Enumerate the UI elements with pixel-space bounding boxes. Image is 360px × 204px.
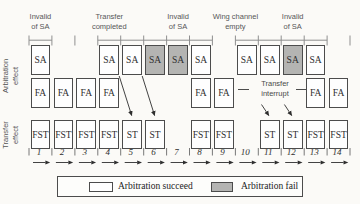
legend-label-succeed: Arbitration succeed (118, 181, 193, 191)
event-label-3-line1: Invalid (167, 12, 189, 22)
event-label-4-line2: empty (213, 22, 258, 32)
fa-arbitration-box-slot-3: FA (76, 78, 96, 108)
timeline-slot-number-13: 13 (310, 147, 319, 157)
fa-arbitration-box-slot-4: FA (99, 78, 119, 108)
event-label-1-line2: of SA (30, 22, 52, 32)
legend-swatch-fail (211, 182, 233, 192)
transfer-effect-line1: Transfer (1, 100, 11, 170)
event-label-3-line2: of SA (167, 22, 189, 32)
transfer-box-slot-3: FST (76, 120, 96, 149)
fa-arbitration-box-slot-14: FA (329, 78, 349, 108)
timeline-slot-number-2: 2 (60, 147, 65, 157)
timeline-slot-number-11: 11 (264, 147, 272, 157)
transfer-effect-line2: effect (11, 100, 21, 170)
event-label-4: Wing channelempty (213, 12, 258, 32)
transfer-box-slot-2: FST (54, 120, 74, 149)
sa-arbitration-box-slot-5: SA (122, 45, 142, 75)
transfer-effect-axis-label: Transfer effect (1, 100, 21, 170)
sa-arbitration-box-slot-13: SA (306, 45, 326, 75)
sa-arbitration-box-slot-10: SA (237, 45, 257, 75)
sa-arbitration-box-slot-11: SA (260, 45, 280, 75)
transfer-box-slot-13: FST (306, 120, 326, 149)
arbitration-timing-diagram: Invalidof SATransfercompletedInvalidof S… (0, 0, 360, 204)
legend-label-fail: Arbitration fail (241, 181, 298, 191)
transfer-box-slot-8: FST (191, 120, 211, 149)
sa-arbitration-box-slot-4: SA (99, 45, 119, 75)
timeline-slot-number-12: 12 (287, 147, 296, 157)
transfer-interrupt-line2: interrupt (261, 89, 289, 99)
timeline-slot-number-8: 8 (197, 147, 202, 157)
timeline-slot-number-14: 14 (333, 147, 342, 157)
transfer-box-slot-4: FST (99, 120, 119, 149)
transfer-box-slot-14: FST (329, 120, 349, 149)
timeline-slot-number-4: 4 (106, 147, 111, 157)
event-label-1-line1: Invalid (30, 12, 52, 22)
sa-arbitration-box-slot-8: SA (191, 45, 211, 75)
timeline-axis (29, 148, 350, 165)
sa-arbitration-box-slot-1: SA (31, 45, 51, 75)
event-label-2-line1: Transfer (92, 12, 127, 22)
transfer-interrupt-note: Transfer interrupt (261, 79, 289, 98)
fa-arbitration-box-slot-8: FA (191, 78, 211, 108)
interrupt-dash-left (238, 89, 249, 90)
transfer-box-slot-9: FST (214, 120, 234, 149)
transfer-box-slot-1: FST (31, 120, 51, 149)
fa-arbitration-box-slot-9: FA (214, 78, 234, 108)
timeline-slot-number-7: 7 (174, 147, 179, 157)
event-label-2-line2: completed (92, 22, 127, 32)
fa-arbitration-box-slot-1: FA (31, 78, 51, 108)
transfer-box-slot-11: ST (260, 120, 280, 149)
transfer-box-slot-5: ST (122, 120, 142, 149)
fa-arbitration-box-slot-2: FA (54, 78, 74, 108)
legend: Arbitration succeedArbitration fail (57, 176, 303, 197)
event-label-1: Invalidof SA (30, 12, 52, 32)
sa-arbitration-box-slot-6: SA (145, 45, 165, 75)
sa-arbitration-box-slot-7: SA (168, 45, 188, 75)
event-label-5-line1: Invalid (282, 12, 304, 22)
timeline-slot-number-3: 3 (83, 147, 88, 157)
sa-to-st-arrows (119, 76, 154, 116)
legend-swatch-succeed (89, 182, 113, 192)
event-label-3: Invalidof SA (167, 12, 189, 32)
transfer-box-slot-6: ST (145, 120, 165, 149)
interrupt-dash-right (296, 89, 307, 90)
event-label-4-line1: Wing channel (213, 12, 258, 22)
sa-arbitration-box-slot-12: SA (283, 45, 303, 75)
timeline-slot-number-5: 5 (128, 147, 133, 157)
timeline-slot-number-9: 9 (220, 147, 225, 157)
sa-extent-ruler (29, 36, 350, 46)
timeline-slot-number-1: 1 (37, 147, 42, 157)
fa-arbitration-box-slot-13: FA (306, 78, 326, 108)
event-label-2: Transfercompleted (92, 12, 127, 32)
transfer-box-slot-12: ST (283, 120, 303, 149)
event-label-5: Invalidof SA (282, 12, 304, 32)
transfer-interrupt-line1: Transfer (261, 79, 289, 89)
timeline-slot-number-6: 6 (151, 147, 156, 157)
interrupt-to-st-arrows (262, 105, 292, 116)
timeline-slot-number-10: 10 (241, 147, 250, 157)
event-label-5-line2: of SA (282, 22, 304, 32)
